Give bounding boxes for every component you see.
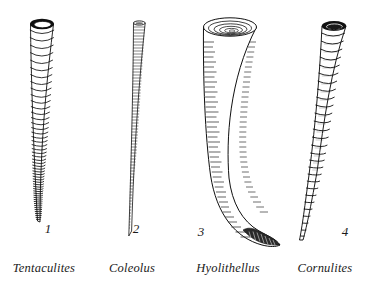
figure-number-2: 2: [133, 221, 140, 236]
figure-number-3: 3: [197, 224, 205, 239]
figure-number-4: 4: [342, 224, 349, 239]
hyolithellus-aperture-rings: [204, 18, 257, 36]
figure-number-1: 1: [45, 221, 52, 236]
illustration-plate: 1 2 3 4 Tentaculites Coleolus Hyolithell…: [0, 0, 375, 282]
fossil-plate-svg: 1 2 3 4 Tentaculites Coleolus Hyolithell…: [0, 0, 375, 282]
genus-label-hyolithellus: Hyolithellus: [195, 261, 260, 275]
genus-label-cornulites: Cornulites: [298, 261, 353, 275]
genus-label-coleolus: Coleolus: [109, 261, 155, 275]
coleolus-aperture-shadow: [136, 22, 143, 24]
genus-label-tentaculites: Tentaculites: [13, 261, 75, 275]
